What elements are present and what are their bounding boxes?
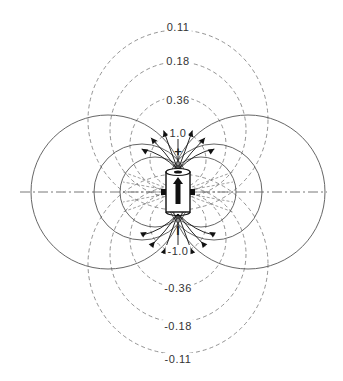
equipotential-label: -0.36	[162, 282, 194, 294]
battery-arrow-shaft	[176, 182, 181, 204]
field-ray-bottom	[178, 214, 214, 235]
field-ray-top	[178, 149, 214, 170]
equipotential-label: 0.18	[164, 55, 191, 67]
field-ray-bottom	[151, 214, 178, 246]
battery-side-right	[190, 189, 195, 195]
positive-sign: +	[174, 144, 182, 159]
field-ray-bottom	[178, 214, 205, 246]
arrow-icon	[187, 130, 195, 138]
arrow-icon	[208, 146, 216, 154]
field-ray-bottom	[142, 214, 178, 235]
equipotential-label: -0.18	[162, 320, 194, 332]
side-ray-left	[123, 197, 164, 212]
equipotential-label: 0.36	[164, 94, 191, 106]
side-ray-right	[192, 195, 233, 203]
arrow-icon	[140, 146, 148, 154]
field-ray-top	[142, 149, 178, 170]
battery-terminal	[174, 171, 182, 174]
dipole-field-diagram: 0.110.180.361.0-1.0-0.36-0.18-0.11 + I	[0, 0, 343, 381]
equipotential-label: 1.0	[168, 127, 189, 139]
negative-sign: I	[176, 224, 179, 238]
equipotential-label: -1.0	[166, 245, 191, 257]
equipotential-label: -0.11	[163, 353, 194, 365]
battery-side-left	[161, 189, 166, 195]
equipotential-label: 0.11	[165, 21, 192, 33]
